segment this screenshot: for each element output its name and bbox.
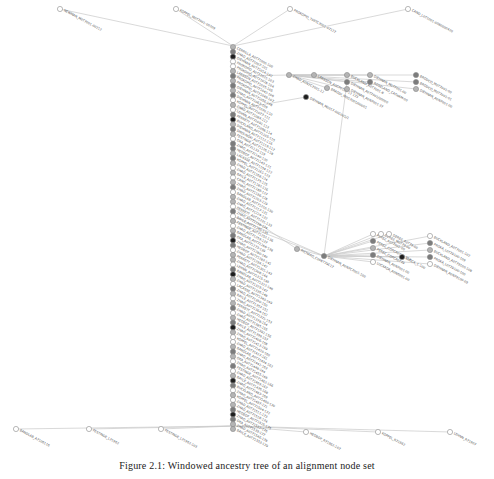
node-circle-icon: [230, 98, 235, 103]
top-branch-node: NEWMAN_M0T7001-00212: [57, 6, 102, 31]
node-circle-icon: [230, 78, 235, 83]
node-circle-icon: [230, 320, 235, 325]
node-circle-icon: [230, 402, 235, 407]
node-circle-icon: [230, 286, 235, 291]
node-circle-icon: [230, 64, 235, 69]
top-branch-node: PROKOPIO_T09TC7001-07127: [287, 6, 336, 34]
node-circle-icon: [230, 73, 235, 78]
caption-text: Windowed ancestry tree of an alignment n…: [168, 460, 375, 471]
node-circle-icon: [427, 240, 432, 245]
node-circle-icon: [413, 79, 418, 84]
node-circle-icon: [230, 112, 235, 117]
node-circle-icon: [399, 254, 404, 259]
node-circle-icon: [370, 259, 375, 264]
node-circle-icon: [230, 422, 235, 427]
node-circle-icon: [230, 54, 235, 59]
node-circle-icon: [230, 209, 235, 214]
node-circle-icon: [286, 72, 291, 77]
node-circle-icon: [230, 417, 235, 422]
node-circle-icon: [230, 59, 235, 64]
node-circle-icon: [230, 151, 235, 156]
bottom-branch-node: FESTINGE_L71962: [86, 426, 119, 445]
node-circle-icon: [370, 245, 375, 250]
node-circle-icon: [230, 49, 235, 54]
node-circle-icon: [230, 359, 235, 364]
node-circle-icon: [86, 426, 91, 431]
node-circle-icon: [230, 339, 235, 344]
node-circle-icon: [413, 72, 418, 77]
edge: [60, 9, 233, 46]
node-circle-icon: [367, 79, 372, 84]
node-label: FESTINGE_L71962-103: [164, 428, 198, 449]
figure-caption: Figure 2.1: Windowed ancestry tree of an…: [0, 460, 494, 471]
node-circle-icon: [230, 122, 235, 127]
node-circle-icon: [230, 393, 235, 398]
node-circle-icon: [230, 330, 235, 335]
node-circle-icon: [57, 6, 62, 11]
node-circle-icon: [230, 301, 235, 306]
bottom-branch-node: HEDBOF_R71962-107: [303, 429, 341, 451]
node-circle-icon: [370, 238, 375, 243]
node-circle-icon: [230, 306, 235, 311]
node-circle-icon: [230, 214, 235, 219]
upper-cluster-dark-node: DIEHNAN_M0017-00C001/1: [303, 94, 349, 120]
node-label: BANDLAB_A7106116: [19, 428, 50, 447]
top-branch-node: KOPPEL_M0T7001-00209: [173, 6, 216, 30]
node-circle-icon: [230, 83, 235, 88]
node-circle-icon: [230, 397, 235, 402]
node-circle-icon: [370, 231, 375, 236]
node-circle-icon: [230, 88, 235, 93]
node-circle-icon: [230, 180, 235, 185]
node-circle-icon: [303, 94, 308, 99]
tree-nodes: CERRILLA_A0T71000-100ZHAO_A0T71007-101DI…: [13, 6, 476, 451]
node-circle-icon: [230, 310, 235, 315]
node-circle-icon: [230, 189, 235, 194]
node-circle-icon: [324, 85, 329, 90]
node-circle-icon: [230, 378, 235, 383]
node-circle-icon: [230, 267, 235, 272]
node-label: FESTINGE_L71962: [92, 428, 120, 445]
node-circle-icon: [230, 262, 235, 267]
node-circle-icon: [230, 228, 235, 233]
node-circle-icon: [230, 272, 235, 277]
node-label: PROKOPIO_T09TC7001-07127: [293, 8, 337, 34]
node-circle-icon: [230, 223, 235, 228]
node-circle-icon: [230, 107, 235, 112]
node-circle-icon: [158, 426, 163, 431]
node-circle-icon: [230, 252, 235, 257]
node-circle-icon: [230, 388, 235, 393]
node-circle-icon: [230, 204, 235, 209]
node-circle-icon: [378, 231, 383, 236]
node-label: NEWMAN_M0T7001-00212: [63, 8, 102, 32]
node-circle-icon: [230, 141, 235, 146]
node-circle-icon: [344, 79, 349, 84]
node-circle-icon: [321, 253, 326, 258]
node-circle-icon: [230, 218, 235, 223]
node-circle-icon: [230, 131, 235, 136]
node-circle-icon: [230, 199, 235, 204]
bottom-branch-node: BANDLAB_A7106116: [13, 426, 50, 447]
node-circle-icon: [405, 6, 410, 11]
node-circle-icon: [413, 86, 418, 91]
bottom-branch-node: KOPPEL_R71962: [375, 429, 405, 447]
node-circle-icon: [230, 238, 235, 243]
ancestry-tree-diagram: CERRILLA_A0T71000-100ZHAO_A0T71007-101DI…: [0, 0, 494, 455]
node-circle-icon: [230, 426, 235, 431]
node-circle-icon: [303, 429, 308, 434]
node-circle-icon: [230, 373, 235, 378]
node-circle-icon: [230, 335, 235, 340]
node-circle-icon: [230, 136, 235, 141]
node-circle-icon: [287, 6, 292, 11]
node-label: CANO_L0T1001-0080000420: [411, 8, 454, 33]
node-circle-icon: [230, 383, 235, 388]
node-circle-icon: [230, 160, 235, 165]
node-circle-icon: [427, 254, 432, 259]
bottom-branch-node: FESTINGE_L71962-103: [158, 426, 198, 449]
node-circle-icon: [230, 175, 235, 180]
node-circle-icon: [230, 233, 235, 238]
node-circle-icon: [230, 325, 235, 330]
node-circle-icon: [230, 296, 235, 301]
node-circle-icon: [230, 349, 235, 354]
node-circle-icon: [230, 344, 235, 349]
node-label: LEHNN_R71907: [453, 431, 477, 446]
